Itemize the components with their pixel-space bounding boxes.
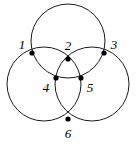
vertex-dot-3: [101, 50, 106, 55]
vertex-dot-5: [78, 75, 83, 80]
vertex-dot-2: [65, 56, 70, 61]
vertex-dots-group: [29, 50, 106, 121]
vertex-dot-4: [53, 75, 58, 80]
vertex-label-6: 6: [65, 126, 72, 141]
vertex-label-2: 2: [65, 38, 72, 53]
vertex-label-3: 3: [110, 37, 118, 52]
vertex-dot-6: [65, 116, 70, 121]
three-circles-figure: 1 2 3 4 5 6: [0, 0, 138, 148]
vertex-label-1: 1: [19, 37, 26, 52]
vertex-label-5: 5: [87, 80, 94, 95]
vertex-dot-1: [29, 50, 34, 55]
circles-group: [7, 4, 129, 121]
vertex-label-4: 4: [43, 80, 50, 95]
figure-canvas: 1 2 3 4 5 6: [0, 0, 138, 148]
